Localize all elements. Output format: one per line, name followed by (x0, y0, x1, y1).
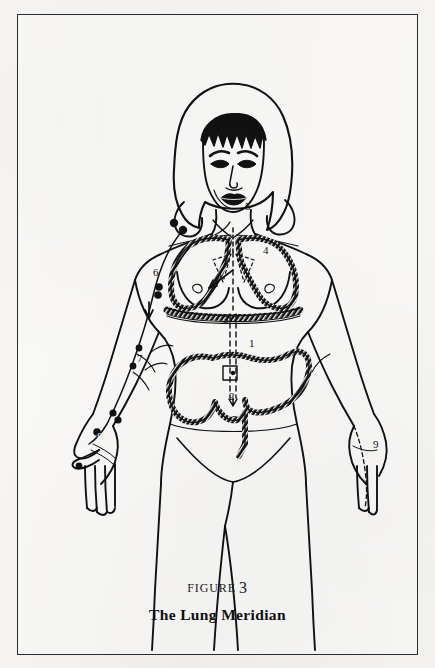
book-page: 1 2 3 4 5 6 7 8 9 FIGURE3 The Lung Merid… (0, 0, 435, 668)
figure-number: 3 (236, 579, 248, 596)
lung-meridian-path (89, 230, 183, 444)
figure-word: FIGURE (187, 581, 236, 595)
legs-group (152, 482, 315, 650)
label-9: 9 (373, 438, 379, 450)
internal-meridian-line (229, 252, 237, 406)
label-4: 4 (263, 244, 269, 256)
label-8: 8 (97, 430, 103, 442)
label-7: 7 (137, 352, 143, 364)
right-hand-meridian-branch (354, 426, 367, 508)
figure-caption: FIGURE3 The Lung Meridian (17, 578, 418, 624)
figure-title: The Lung Meridian (17, 606, 418, 624)
label-1: 1 (249, 337, 255, 349)
label-2: 2 (229, 390, 235, 402)
label-5: 5 (245, 200, 251, 212)
figure-number-line: FIGURE3 (17, 578, 418, 596)
label-6: 6 (153, 266, 159, 278)
head-group (174, 84, 295, 237)
label-3: 3 (223, 313, 229, 325)
lung-meridian-illustration: 1 2 3 4 5 6 7 8 9 (17, 14, 418, 655)
